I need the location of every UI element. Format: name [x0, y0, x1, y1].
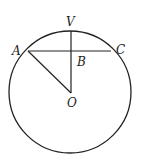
label-o: O [67, 96, 77, 110]
label-a: A [11, 44, 21, 58]
label-c: C [116, 43, 125, 57]
segment-ao [28, 51, 71, 93]
label-v: V [66, 15, 76, 29]
circle-diagram: V A B C O [0, 0, 143, 168]
label-b: B [76, 55, 86, 69]
